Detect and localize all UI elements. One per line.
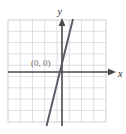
graph-canvas: y x (0, 0) — [0, 0, 126, 134]
x-axis-label: x — [117, 68, 123, 79]
y-axis-label: y — [57, 6, 63, 17]
x-axis-arrow-icon — [108, 69, 116, 76]
origin-point-label: (0, 0) — [31, 58, 51, 68]
coordinate-grid-figure: y x (0, 0) — [0, 0, 126, 134]
